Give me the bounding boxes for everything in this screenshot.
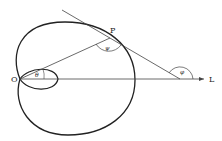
outer-loop-curve: [16, 22, 135, 135]
limacon-diagram: O P L θ ψ φ: [0, 0, 222, 141]
origin-label: O: [11, 75, 18, 84]
point-p-label: P: [110, 26, 116, 35]
psi-label: ψ: [105, 44, 110, 52]
theta-label: θ: [35, 71, 39, 78]
axis-arrowhead: [199, 77, 204, 81]
theta-angle-arc: [43, 69, 44, 79]
tangent-line: [62, 10, 180, 79]
axis-l-label: L: [209, 75, 215, 84]
phi-label: φ: [180, 68, 185, 76]
